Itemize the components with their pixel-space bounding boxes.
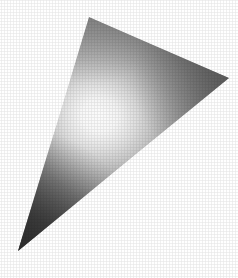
shaded-triangle-render	[0, 0, 238, 278]
render-canvas	[0, 0, 238, 278]
